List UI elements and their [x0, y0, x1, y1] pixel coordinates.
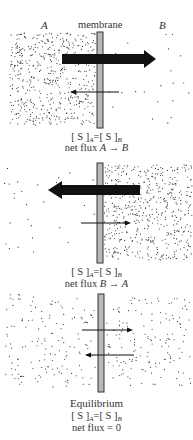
equilibrium-title: Equilibrium: [0, 397, 193, 409]
net-flux-label: net flux A → B: [0, 142, 193, 154]
membrane: [97, 32, 103, 128]
membrane: [97, 163, 103, 263]
arrow-left-icon: [85, 353, 134, 358]
small-arrow-left-icon: [70, 90, 119, 95]
diffusion-panel-3-graphic: [0, 292, 193, 394]
large-arrow-left-icon: [48, 181, 140, 199]
arrow-right-icon: [82, 328, 133, 333]
diffusion-panel-2-graphic: [0, 155, 193, 265]
panel-net-flux-a-to-b: A membrane B [ S ]A=[ S ]B net flux A → …: [0, 0, 193, 150]
panel-equilibrium: Equilibrium [ S ]A=[ S ]B net flux = 0: [0, 292, 193, 440]
net-flux-label: net flux = 0: [0, 422, 193, 434]
diffusion-panel-1-graphic: [0, 0, 193, 130]
membrane: [98, 294, 104, 392]
panel-net-flux-b-to-a: [ S ]A=[ S ]B net flux B → A: [0, 155, 193, 295]
small-arrow-right-icon: [81, 221, 131, 226]
net-flux-label: net flux B → A: [0, 278, 193, 290]
